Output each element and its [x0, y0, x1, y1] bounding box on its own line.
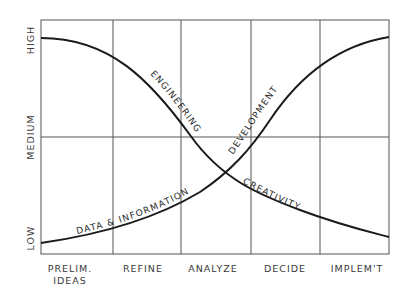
x-label-decide: DECIDE: [264, 263, 306, 274]
rising-curve-data-development: [41, 37, 389, 243]
x-label-analyze: ANALYZE: [188, 263, 237, 274]
label-creativity: CREATIVITY: [241, 176, 302, 212]
x-label-prelim: PRELIM.: [48, 263, 93, 274]
label-data-information: DATA & INFORMATION: [75, 186, 191, 236]
x-label-refine: REFINE: [123, 263, 163, 274]
x-label-implement: IMPLEM'T: [331, 263, 384, 274]
label-development: DEVELOPMENT: [226, 84, 279, 156]
y-label-medium: MEDIUM: [25, 114, 36, 159]
chart-canvas: ENGINEERING DEVELOPMENT DATA & INFORMATI…: [0, 0, 408, 294]
y-label-high: HIGH: [25, 26, 36, 54]
label-engineering: ENGINEERING: [149, 69, 204, 135]
y-label-low: LOW: [25, 226, 36, 251]
x-label-ideas: IDEAS: [53, 275, 87, 286]
